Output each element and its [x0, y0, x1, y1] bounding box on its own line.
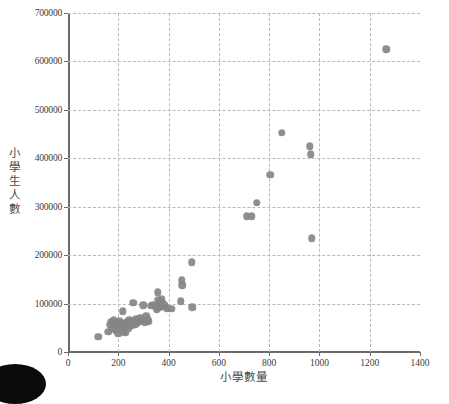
data-point [94, 333, 102, 341]
x-axis-title: 小學數量 [68, 368, 420, 384]
x-tick-mark [269, 352, 270, 356]
y-tick-mark [64, 110, 68, 111]
gridline-vertical [269, 13, 270, 352]
gridline-vertical [370, 13, 371, 352]
gridline-vertical [319, 13, 320, 352]
gridline-vertical [118, 13, 119, 352]
gridline-horizontal [68, 13, 420, 14]
gridline-horizontal [68, 304, 420, 305]
data-point [267, 171, 275, 179]
gridline-horizontal [68, 207, 420, 208]
corner-artifact [0, 364, 46, 404]
y-tick-label: 0 [57, 347, 62, 357]
y-tick-label: 100000 [35, 299, 62, 309]
x-tick-mark [319, 352, 320, 356]
data-point [248, 213, 256, 221]
x-tick-mark [169, 352, 170, 356]
y-tick-label: 500000 [35, 105, 62, 115]
y-axis-title: 小學生人數 [6, 146, 22, 216]
plot-area: 0100000200000300000400000500000600000700… [68, 13, 420, 352]
x-tick-label: 1400 [411, 358, 430, 368]
data-point [119, 308, 127, 316]
data-point [188, 259, 196, 267]
y-tick-label: 700000 [35, 8, 62, 18]
x-tick-label: 1200 [360, 358, 379, 368]
x-tick-label: 600 [212, 358, 226, 368]
y-tick-label: 600000 [35, 56, 62, 66]
data-point [188, 304, 196, 312]
x-tick-label: 800 [262, 358, 276, 368]
data-point [178, 281, 186, 289]
data-point [253, 199, 261, 207]
y-tick-mark [64, 207, 68, 208]
gridline-horizontal [68, 158, 420, 159]
x-tick-mark [118, 352, 119, 356]
gridline-vertical [169, 13, 170, 352]
data-point [177, 297, 185, 305]
y-tick-label: 400000 [35, 153, 62, 163]
data-point [145, 318, 153, 326]
data-point [167, 305, 175, 313]
gridline-horizontal [68, 255, 420, 256]
data-point [278, 129, 286, 137]
y-tick-mark [64, 255, 68, 256]
y-tick-label: 300000 [35, 202, 62, 212]
x-tick-mark [219, 352, 220, 356]
x-tick-mark [420, 352, 421, 356]
x-tick-mark [68, 352, 69, 356]
x-tick-label: 0 [66, 358, 71, 368]
y-tick-mark [64, 158, 68, 159]
data-point [130, 299, 138, 307]
data-point [306, 142, 314, 150]
x-tick-mark [370, 352, 371, 356]
y-tick-mark [64, 304, 68, 305]
x-tick-label: 1000 [310, 358, 329, 368]
y-tick-label: 200000 [35, 250, 62, 260]
x-tick-label: 200 [111, 358, 125, 368]
data-point [382, 46, 390, 54]
data-point [307, 151, 315, 159]
y-tick-mark [64, 61, 68, 62]
data-point [308, 234, 316, 242]
gridline-horizontal [68, 110, 420, 111]
x-tick-label: 400 [161, 358, 175, 368]
y-tick-mark [64, 13, 68, 14]
data-point [140, 301, 148, 309]
gridline-horizontal [68, 61, 420, 62]
gridline-vertical [219, 13, 220, 352]
